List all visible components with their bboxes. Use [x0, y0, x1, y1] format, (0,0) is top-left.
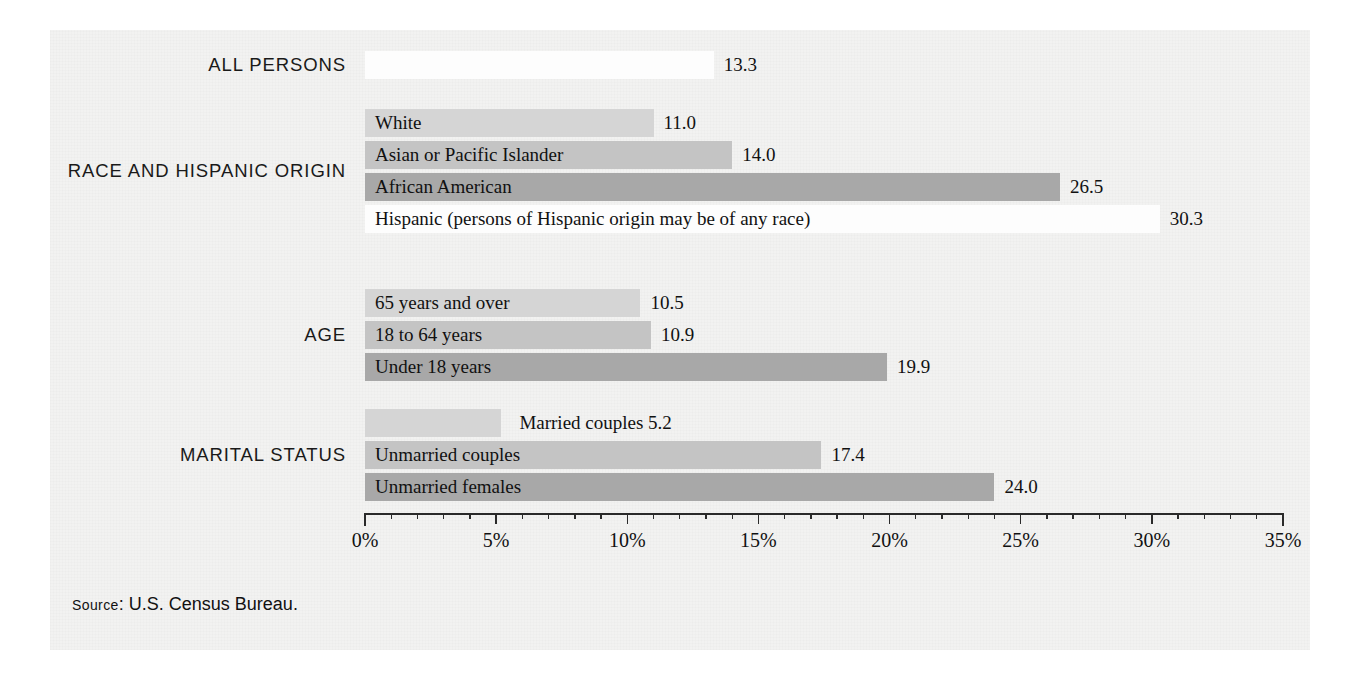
- x-axis-major-tick: [758, 513, 759, 524]
- bar-value-label: 24.0: [1004, 476, 1037, 498]
- x-axis-major-tick: [1151, 513, 1152, 524]
- x-axis-major-tick: [364, 513, 365, 526]
- x-axis-major-tick: [889, 513, 890, 524]
- x-axis-minor-tick: [1204, 513, 1205, 519]
- x-axis-minor-tick: [469, 513, 470, 519]
- source-note: Source: U.S. Census Bureau.: [72, 594, 298, 615]
- x-axis-major-tick: [1020, 513, 1021, 524]
- x-axis-tick-label: 30%: [1134, 529, 1171, 552]
- x-axis-minor-tick: [968, 513, 969, 519]
- x-axis-minor-tick: [915, 513, 916, 519]
- bar-label: Unmarried couples: [375, 444, 520, 466]
- chart-bar-row: 18 to 64 years10.9: [50, 321, 1310, 349]
- bar-value-label: 30.3: [1170, 208, 1203, 230]
- x-axis-minor-tick: [810, 513, 811, 519]
- bar-label: Hispanic (persons of Hispanic origin may…: [375, 208, 810, 230]
- chart-bar-row: Hispanic (persons of Hispanic origin may…: [50, 205, 1310, 233]
- x-axis: 0%5%10%15%20%25%30%35%: [365, 513, 1283, 514]
- bar-label: 18 to 64 years: [375, 324, 482, 346]
- x-axis-tick-label: 20%: [871, 529, 908, 552]
- chart-bar-row: Unmarried females24.0: [50, 473, 1310, 501]
- chart-bar-row: Married couples 5.25.2: [50, 409, 1310, 437]
- x-axis-minor-tick: [732, 513, 733, 519]
- x-axis-major-tick: [627, 513, 628, 524]
- bar-label: Married couples 5.2: [519, 412, 671, 434]
- x-axis-minor-tick: [1046, 513, 1047, 519]
- chart-bar-row: African American26.5: [50, 173, 1310, 201]
- source-label: Source: [72, 597, 119, 613]
- x-axis-minor-tick: [417, 513, 418, 519]
- bar-value-label: 17.4: [831, 444, 864, 466]
- x-axis-minor-tick: [679, 513, 680, 519]
- x-axis-minor-tick: [836, 513, 837, 519]
- chart-bar-row: White11.0: [50, 109, 1310, 137]
- x-axis-minor-tick: [574, 513, 575, 519]
- bar-label: Unmarried females: [375, 476, 521, 498]
- bar-value-label: 10.5: [650, 292, 683, 314]
- x-axis-minor-tick: [705, 513, 706, 519]
- bar-value-label: 10.9: [661, 324, 694, 346]
- x-axis-minor-tick: [994, 513, 995, 519]
- bar-value-label: 26.5: [1070, 176, 1103, 198]
- x-axis-tick-label: 25%: [1002, 529, 1039, 552]
- x-axis-major-tick: [1282, 513, 1283, 526]
- bar-label: White: [375, 112, 421, 134]
- chart-bar-row: 65 years and over10.5: [50, 289, 1310, 317]
- bar-value-label: 13.3: [724, 54, 757, 76]
- bar-label: 65 years and over: [375, 292, 510, 314]
- source-separator: :: [119, 594, 124, 614]
- bar-value-label: 11.0: [664, 112, 697, 134]
- bar-label: Asian or Pacific Islander: [375, 144, 563, 166]
- bar-value-label: 14.0: [742, 144, 775, 166]
- x-axis-minor-tick: [1072, 513, 1073, 519]
- x-axis-major-tick: [495, 513, 496, 524]
- x-axis-tick-label: 0%: [352, 529, 379, 552]
- chart-figure-panel: ALL PERSONS13.3RACE AND HISPANIC ORIGINW…: [50, 30, 1310, 650]
- chart-bar-row: Unmarried couples17.4: [50, 441, 1310, 469]
- x-axis-minor-tick: [1177, 513, 1178, 519]
- x-axis-minor-tick: [1230, 513, 1231, 519]
- x-axis-minor-tick: [1099, 513, 1100, 519]
- x-axis-line: [365, 513, 1283, 515]
- bar-label: Under 18 years: [375, 356, 491, 378]
- bar-label: African American: [375, 176, 512, 198]
- x-axis-minor-tick: [443, 513, 444, 519]
- x-axis-tick-label: 35%: [1265, 529, 1302, 552]
- x-axis-minor-tick: [941, 513, 942, 519]
- chart-bar-row: Asian or Pacific Islander14.0: [50, 141, 1310, 169]
- bar-value-label: 19.9: [897, 356, 930, 378]
- x-axis-minor-tick: [522, 513, 523, 519]
- x-axis-minor-tick: [863, 513, 864, 519]
- x-axis-minor-tick: [548, 513, 549, 519]
- x-axis-minor-tick: [600, 513, 601, 519]
- bar: [365, 51, 714, 79]
- x-axis-minor-tick: [784, 513, 785, 519]
- x-axis-minor-tick: [391, 513, 392, 519]
- x-axis-minor-tick: [1125, 513, 1126, 519]
- x-axis-tick-label: 5%: [483, 529, 510, 552]
- x-axis-tick-label: 10%: [609, 529, 646, 552]
- source-text: U.S. Census Bureau.: [129, 594, 298, 614]
- bar: [365, 409, 501, 437]
- chart-bar-row: 13.3: [50, 51, 1310, 79]
- chart-bar-row: Under 18 years19.9: [50, 353, 1310, 381]
- x-axis-minor-tick: [1256, 513, 1257, 519]
- x-axis-tick-label: 15%: [740, 529, 777, 552]
- x-axis-minor-tick: [653, 513, 654, 519]
